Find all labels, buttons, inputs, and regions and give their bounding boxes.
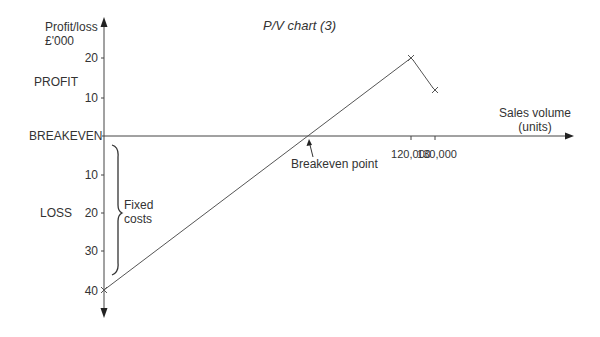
point-markers xyxy=(101,55,438,293)
fixed-costs-label: Fixed costs xyxy=(124,198,153,226)
x-tick-130000: 130,000 xyxy=(412,147,462,161)
y-tick-20-profit: 20 xyxy=(70,51,98,65)
fixed-costs-brace xyxy=(112,145,122,275)
contribution-line xyxy=(104,58,411,290)
loss-label: LOSS xyxy=(40,206,72,220)
contribution-line-drop xyxy=(413,60,433,88)
y-tick-10-loss: 10 xyxy=(70,168,98,182)
breakeven-arrow-icon xyxy=(307,139,313,146)
y-axis-arrow-down-icon xyxy=(101,308,108,318)
breakeven-point-label: Breakeven point xyxy=(291,157,378,171)
y-axis-label: Profit/loss£'000 xyxy=(45,20,98,48)
y-tick-10-profit: 10 xyxy=(70,91,98,105)
profit-label: PROFIT xyxy=(34,75,78,89)
y-axis-arrow-up-icon xyxy=(101,17,108,27)
y-tick-20-loss: 20 xyxy=(70,206,98,220)
y-tick-30-loss: 30 xyxy=(70,244,98,258)
y-tick-40-loss: 40 xyxy=(70,284,98,298)
chart-title: P/V chart (3) xyxy=(263,19,336,33)
breakeven-label: BREAKEVEN xyxy=(29,129,102,143)
x-axis-label: Sales volume (units) xyxy=(480,106,590,134)
